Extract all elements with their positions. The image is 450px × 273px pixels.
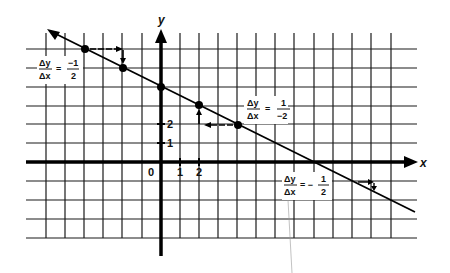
ann2-num: 1 — [281, 98, 286, 108]
y-axis-label: y — [157, 13, 166, 27]
ann2-dx: Δx — [247, 111, 258, 121]
slope-annotation-2: Δy Δx = 1 −2 — [244, 96, 290, 124]
x-axis-label: x — [419, 156, 428, 170]
x-axis-arrow-icon — [404, 156, 418, 168]
ann1-eq: = — [56, 64, 61, 74]
ann2-dy: Δy — [247, 98, 258, 108]
ann3-num: 1 — [321, 174, 326, 184]
ann2-eq: = — [265, 104, 270, 114]
point — [157, 83, 165, 91]
step-arrows-left — [90, 46, 126, 64]
y-tick-label-1: 1 — [167, 137, 173, 149]
ann1-dy: Δy — [39, 58, 50, 68]
ann3-den: 2 — [321, 187, 326, 197]
x-axis — [26, 156, 418, 168]
ann1-dx: Δx — [39, 71, 50, 81]
origin-label: 0 — [148, 166, 154, 178]
y-tick-label-2: 2 — [167, 118, 173, 130]
ann3-dy: Δy — [284, 174, 295, 184]
ann2-den: −2 — [277, 111, 287, 121]
tick-marks — [157, 124, 199, 166]
point — [81, 45, 89, 53]
arrow-up-icon — [196, 109, 202, 115]
arrow-left-icon — [204, 122, 211, 128]
x-tick-label-2: 2 — [196, 166, 202, 178]
coordinate-graph: x y 0 1 2 1 2 Δy Δ — [0, 0, 450, 273]
ann3-dx: Δx — [284, 187, 295, 197]
ann1-den: 2 — [71, 71, 76, 81]
scan-artifact-line — [288, 200, 292, 273]
x-tick-label-1: 1 — [177, 166, 183, 178]
linear-function-line — [47, 29, 415, 212]
ann1-num: −1 — [68, 58, 78, 68]
line-arrow-icon — [47, 29, 60, 40]
y-axis-arrow-icon — [155, 29, 167, 43]
arrow-down-icon — [120, 58, 126, 64]
grid-vertical-lines — [46, 33, 391, 238]
slope-annotation-1: Δy Δx = −1 2 — [37, 56, 83, 84]
slope-annotation-3: Δy Δx = − 1 2 — [282, 172, 332, 200]
point — [119, 64, 127, 72]
point — [195, 101, 203, 109]
grid-horizontal-lines — [26, 49, 417, 238]
ann3-eq: = − — [300, 180, 313, 190]
point — [234, 121, 242, 129]
